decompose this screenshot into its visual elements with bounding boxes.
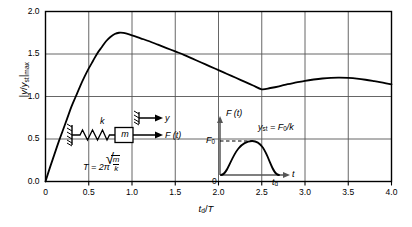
td-label-sub: d <box>275 180 279 187</box>
inset-x-axis-label: t <box>292 169 295 179</box>
inset-spring-mass-system <box>67 111 163 146</box>
inset-y-axis-label: F (t) <box>226 108 242 118</box>
y-tick-label: 0.0 <box>6 176 40 186</box>
inset-y-axis-arrowhead <box>217 116 223 123</box>
mass-label: m <box>119 129 131 139</box>
half-sine-pulse-curve <box>221 141 279 175</box>
td-label: td <box>272 177 278 187</box>
displacement-arrow-head <box>155 115 163 122</box>
x-tick-label: 3.0 <box>289 187 321 197</box>
x-tick-label: 2.5 <box>246 187 278 197</box>
x-tick-label: 4.0 <box>376 187 408 197</box>
chart-figure: 0.00.51.01.52.0 00.51.01.52.02.53.03.54.… <box>0 0 412 227</box>
x-tick-label: 1.0 <box>116 187 148 197</box>
radical-sign: √ <box>106 154 114 163</box>
x-tick-label: 1.5 <box>159 187 191 197</box>
wall-hatching <box>67 124 72 146</box>
force-arrow-head <box>155 132 163 139</box>
x-axis-title: td/T <box>0 203 412 214</box>
square-root-group: √ m k <box>111 155 121 174</box>
x-tick-label: 0.5 <box>73 187 105 197</box>
force-label: F (t) <box>165 130 181 140</box>
y-tick-label: 0.5 <box>6 133 40 143</box>
f0-label: F0 <box>206 135 215 145</box>
static-deflection-relation: yst = F0/k <box>258 122 294 132</box>
reference-wall-hatching <box>134 111 139 125</box>
f0-label-sub: 0 <box>212 138 216 145</box>
period-formula: T = 2π √ m k <box>83 155 120 174</box>
plot-area: 0.00.51.01.52.0 00.51.01.52.02.53.03.54.… <box>0 0 412 227</box>
y-axis-title: |y/yst|max <box>18 40 29 120</box>
x-tick-label: 0 <box>30 187 62 197</box>
inset-origin-label: 0 <box>212 176 217 186</box>
spring-coil <box>72 130 115 140</box>
relation-tail: /k <box>287 122 294 132</box>
displacement-label: y <box>165 113 170 123</box>
x-tick-label: 2.0 <box>203 187 235 197</box>
inset-x-axis-arrowhead <box>283 172 290 178</box>
y-tick-label: 2.0 <box>6 6 40 16</box>
relation-rhs: = F <box>267 122 283 132</box>
spring-constant-label: k <box>100 116 105 126</box>
x-tick-label: 3.5 <box>332 187 364 197</box>
